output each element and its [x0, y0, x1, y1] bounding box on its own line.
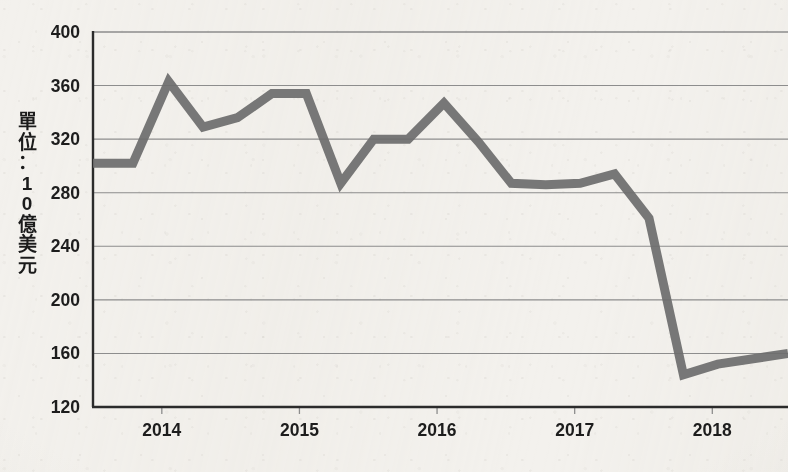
x-axis-tick-label: 2014 — [142, 420, 181, 440]
y-axis-tick-label: 400 — [51, 22, 80, 42]
y-axis-title-char: ： — [10, 153, 44, 174]
y-axis-tick-label: 240 — [51, 236, 80, 256]
y-axis-title-char: 美 — [10, 235, 44, 256]
data-line — [93, 82, 788, 375]
x-axis-tick-label: 2018 — [693, 420, 732, 440]
y-axis-title-char: 1 — [10, 174, 44, 195]
y-axis-tick-label: 120 — [51, 397, 80, 417]
x-axis-tick-label: 2017 — [555, 420, 594, 440]
y-axis-tick-label: 320 — [51, 129, 80, 149]
y-axis-tick-label: 360 — [51, 76, 80, 96]
chart-figure: 120160200240280320360400 201420152016201… — [0, 0, 788, 472]
y-axis-title: 單位：10億美元 — [10, 112, 44, 276]
x-axis-tick-label: 2015 — [280, 420, 319, 440]
y-axis-title-char: 0 — [10, 194, 44, 215]
line-chart: 120160200240280320360400 201420152016201… — [0, 0, 788, 472]
y-axis-tick-label: 280 — [51, 183, 80, 203]
y-axis-tick-label: 160 — [51, 343, 80, 363]
y-axis-title-char: 單 — [10, 112, 44, 133]
x-axis-tick-label: 2016 — [418, 420, 457, 440]
yaxis-tick-labels-group: 120160200240280320360400 — [51, 22, 80, 417]
y-axis-title-char: 億 — [10, 215, 44, 236]
y-axis-title-char: 元 — [10, 256, 44, 277]
gridlines-group — [93, 32, 788, 353]
axis-lines-group — [92, 31, 788, 407]
data-series-group — [93, 82, 788, 375]
xaxis-tick-labels-group: 20142015201620172018 — [142, 420, 732, 440]
y-axis-title-char: 位 — [10, 133, 44, 154]
y-axis-tick-label: 200 — [51, 290, 80, 310]
